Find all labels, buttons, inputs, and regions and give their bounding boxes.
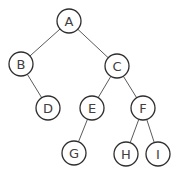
node-label: G xyxy=(69,146,79,161)
tree-node-h: H xyxy=(114,142,138,166)
edge-a-b xyxy=(30,29,60,56)
tree-node-b: B xyxy=(9,52,33,76)
edge-a-c xyxy=(78,29,108,58)
tree-node-g: G xyxy=(62,141,86,165)
tree-node-d: D xyxy=(36,96,60,120)
edge-e-g xyxy=(78,119,87,142)
tree-node-a: A xyxy=(57,9,81,33)
node-label: F xyxy=(139,101,146,116)
tree-edges xyxy=(27,29,154,143)
tree-node-c: C xyxy=(105,54,129,78)
tree-node-e: E xyxy=(80,96,104,120)
node-label: C xyxy=(112,59,121,74)
node-label: E xyxy=(88,101,96,116)
node-label: H xyxy=(121,147,131,162)
node-label: A xyxy=(65,14,74,29)
edge-f-i xyxy=(147,119,155,142)
tree-node-f: F xyxy=(131,96,155,120)
binary-tree-diagram: ABCDEFGHI xyxy=(0,0,179,173)
node-label: B xyxy=(17,57,26,72)
edge-f-h xyxy=(130,119,139,142)
node-label: D xyxy=(43,101,53,116)
node-label: I xyxy=(156,147,160,162)
edge-c-e xyxy=(98,76,111,97)
tree-node-i: I xyxy=(146,142,170,166)
tree-nodes: ABCDEFGHI xyxy=(9,9,170,166)
edge-c-f xyxy=(123,76,136,98)
edge-b-d xyxy=(27,74,41,98)
